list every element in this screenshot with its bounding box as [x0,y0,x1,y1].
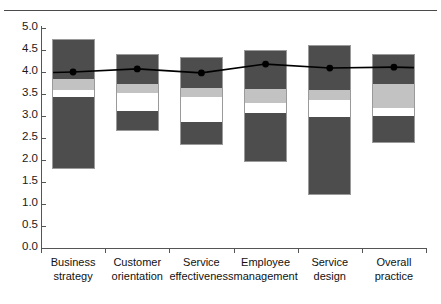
y-axis-tick-label: 4.0 [4,64,38,76]
y-axis-line [41,26,42,250]
x-axis-label-6: Overallpractice [362,256,426,283]
y-axis-tick-label: 1.0 [4,196,38,208]
y-axis-tick-label: 0.5 [4,218,38,230]
bar-outline [308,45,351,195]
bar-outline [116,54,159,131]
y-axis-tick-label: 5.0 [4,20,38,32]
x-axis-label-2: Customerorientation [105,256,169,283]
x-axis-label-1: Businessstrategy [41,256,105,283]
chart-page: 0.00.51.01.52.02.53.03.54.04.55.0 Busine… [0,0,441,304]
x-axis-label-line: management [234,270,298,284]
chart-plot-area: 0.00.51.01.52.02.53.03.54.04.55.0 Busine… [0,0,441,304]
bar-6 [372,54,415,143]
x-axis-label-line: practice [362,270,426,284]
bar-3 [180,57,223,145]
bar-4 [244,50,287,162]
y-axis-tick-label: 3.5 [4,86,38,98]
x-axis-label-4: Employeemanagement [234,256,298,283]
y-axis-tick-label: 0.0 [4,240,38,252]
y-axis-tick-label: 4.5 [4,42,38,54]
y-axis-tick-label: 1.5 [4,174,38,186]
bar-outline [52,39,95,169]
bar-outline [180,57,223,145]
bar-outline [244,50,287,162]
x-axis-tick [234,248,235,253]
x-axis-label-line: Service [298,256,362,270]
x-axis-tick [298,248,299,253]
x-axis-label-line: effectiveness [169,270,233,284]
bar-2 [116,54,159,131]
x-axis-label-line: orientation [105,270,169,284]
x-axis-label-line: strategy [41,270,105,284]
x-axis-label-line: Service [169,256,233,270]
x-axis-tick [169,248,170,253]
x-axis-label-line: Customer [105,256,169,270]
x-axis-tick [362,248,363,253]
y-axis-tick-label: 2.0 [4,152,38,164]
x-axis-tick [41,248,42,253]
x-axis-label-5: Servicedesign [298,256,362,283]
x-axis-label-line: Employee [234,256,298,270]
x-axis-tick [105,248,106,253]
x-axis-tick [426,248,427,253]
x-axis-label-line: Business [41,256,105,270]
y-axis-tick-label: 3.0 [4,108,38,120]
y-axis-tick-label: 2.5 [4,130,38,142]
bar-1 [52,39,95,169]
x-axis-label-line: design [298,270,362,284]
x-axis-label-3: Serviceeffectiveness [169,256,233,283]
bar-outline [372,54,415,143]
bar-5 [308,45,351,195]
x-axis-label-line: Overall [362,256,426,270]
